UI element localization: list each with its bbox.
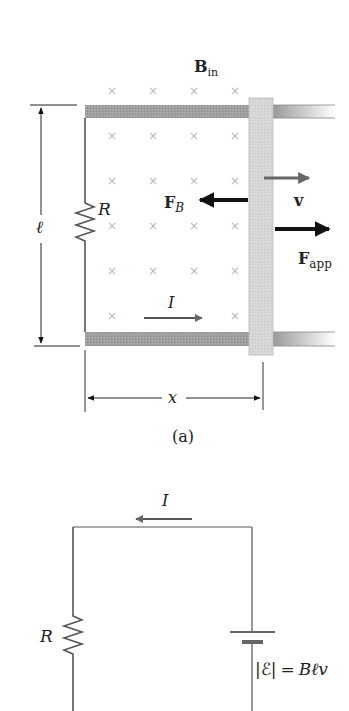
resistor-icon [76,118,94,332]
circuit-resistor-label: R [39,626,53,646]
resistor-label: R [97,199,111,219]
svg-text:×: × [148,264,158,278]
applied-force-label: Fapp [298,249,332,271]
bottom-rail [85,332,250,346]
velocity-label: v [293,191,304,210]
svg-text:×: × [148,219,158,233]
svg-text:×: × [189,84,199,98]
svg-text:×: × [107,264,117,278]
current-label: I [167,293,175,312]
diagram-canvas: Bin × × × × × × × × × × × × × × × × × × … [0,0,349,711]
svg-text:×: × [189,219,199,233]
distance-label: x [168,388,177,407]
svg-text:×: × [189,264,199,278]
length-label: ℓ [36,217,43,237]
svg-text:×: × [148,84,158,98]
circuit-resistor-icon [64,527,82,711]
svg-text:×: × [107,174,117,188]
caption-a: (a) [172,427,194,446]
svg-text:×: × [230,174,240,188]
svg-text:×: × [107,84,117,98]
top-rail-extension [273,105,335,118]
magnetic-force-label: FB [164,193,184,215]
figure-a: Bin × × × × × × × × × × × × × × × × × × … [30,57,335,446]
bottom-rail-extension [273,332,335,346]
svg-text:×: × [107,219,117,233]
svg-text:×: × [107,129,117,143]
svg-text:×: × [230,84,240,98]
circuit-current-label: I [161,491,169,510]
emf-equation: |ℰ|=Bℓv [255,659,328,679]
svg-text:×: × [230,219,240,233]
svg-text:×: × [189,174,199,188]
svg-text:×: × [230,309,240,323]
svg-text:×: × [189,129,199,143]
svg-text:×: × [148,129,158,143]
figure-b: I R |ℰ|=Bℓv [39,491,328,711]
svg-text:×: × [230,264,240,278]
svg-text:×: × [107,309,117,323]
top-rail [85,105,250,118]
svg-text:×: × [230,129,240,143]
sliding-bar [249,98,273,355]
svg-text:×: × [148,174,158,188]
field-label: Bin [194,57,218,79]
